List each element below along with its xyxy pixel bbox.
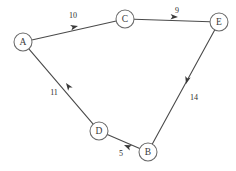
node-label-B: B xyxy=(145,147,151,157)
edge-line-E-B xyxy=(152,30,214,144)
node-E[interactable]: E xyxy=(210,13,228,31)
edges-group xyxy=(29,19,215,148)
edge-weight-D-A: 11 xyxy=(50,88,58,97)
node-D[interactable]: D xyxy=(90,122,108,140)
arrowhead-C-E xyxy=(170,14,178,20)
edge-weight-A-C: 10 xyxy=(69,11,77,20)
graph-diagram: 10914511 ACEDB xyxy=(0,0,236,171)
edge-line-A-C xyxy=(32,21,116,40)
node-C[interactable]: C xyxy=(116,10,134,28)
arrowhead-E-B xyxy=(183,76,190,85)
edge-weight-B-D: 5 xyxy=(119,149,123,158)
edge-line-B-D xyxy=(107,135,139,149)
edge-line-D-A xyxy=(29,49,93,124)
edge-weight-E-B: 14 xyxy=(190,93,198,102)
node-label-D: D xyxy=(96,126,103,136)
arrowheads-group xyxy=(64,14,191,151)
node-A[interactable]: A xyxy=(14,33,32,51)
edge-line-C-E xyxy=(134,19,210,21)
edge-weight-C-E: 9 xyxy=(175,6,179,15)
node-B[interactable]: B xyxy=(139,143,157,161)
node-label-E: E xyxy=(216,17,222,27)
node-label-A: A xyxy=(20,37,27,47)
arrowhead-D-A xyxy=(64,81,73,90)
node-label-C: C xyxy=(122,14,128,24)
nodes-group: ACEDB xyxy=(14,10,228,161)
